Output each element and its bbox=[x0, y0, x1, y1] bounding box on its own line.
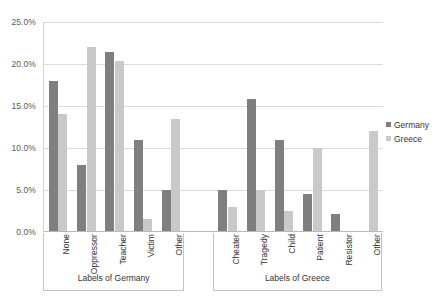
y-axis-tick-label: 25.0% bbox=[11, 17, 36, 27]
bar-germany-other bbox=[162, 190, 171, 232]
bar-greece-child bbox=[284, 211, 293, 232]
bar-greece-oppressor bbox=[87, 47, 96, 232]
y-axis-tick-label: 0.0% bbox=[16, 227, 36, 237]
bar-germany-patient bbox=[303, 194, 312, 232]
bar-germany-child bbox=[275, 140, 284, 232]
y-axis-tick-label: 15.0% bbox=[11, 101, 36, 111]
bar-germany-tragedy bbox=[247, 99, 256, 232]
bar-germany-victim bbox=[134, 140, 143, 232]
legend-swatch-icon bbox=[386, 122, 391, 127]
bar-germany-oppressor bbox=[77, 165, 86, 232]
bar-chart-figure: 0.0%5.0%10.0%15.0%20.0%25.0% NoneOppress… bbox=[0, 0, 439, 298]
plot-area bbox=[43, 22, 383, 232]
bar-germany-cheater bbox=[218, 190, 227, 232]
legend-item-germany[interactable]: Germany bbox=[386, 118, 439, 131]
legend-item-greece[interactable]: Greece bbox=[386, 132, 439, 145]
legend: GermanyGreece bbox=[386, 118, 439, 146]
bars-layer bbox=[44, 22, 383, 232]
y-axis-tick-label: 10.0% bbox=[11, 143, 36, 153]
legend-label: Greece bbox=[394, 134, 422, 144]
y-axis-tick-label: 20.0% bbox=[11, 59, 36, 69]
legend-label: Germany bbox=[394, 120, 429, 130]
bar-greece-tragedy bbox=[256, 190, 265, 232]
bar-germany-none bbox=[49, 81, 58, 232]
legend-swatch-icon bbox=[386, 136, 391, 141]
bar-greece-other bbox=[369, 131, 378, 232]
bar-greece-other bbox=[171, 119, 180, 232]
bar-greece-teacher bbox=[115, 61, 124, 232]
x-axis-baseline bbox=[44, 231, 383, 232]
y-axis: 0.0%5.0%10.0%15.0%20.0%25.0% bbox=[0, 0, 40, 298]
axis-group-title: Labels of Germany bbox=[43, 273, 184, 283]
axis-group-title: Labels of Greece bbox=[213, 273, 383, 283]
bar-greece-cheater bbox=[228, 207, 237, 232]
bar-germany-resistor bbox=[331, 214, 340, 232]
y-axis-tick-label: 5.0% bbox=[16, 185, 36, 195]
bar-germany-teacher bbox=[105, 52, 114, 232]
bar-greece-patient bbox=[313, 148, 322, 232]
bar-greece-none bbox=[58, 114, 67, 232]
